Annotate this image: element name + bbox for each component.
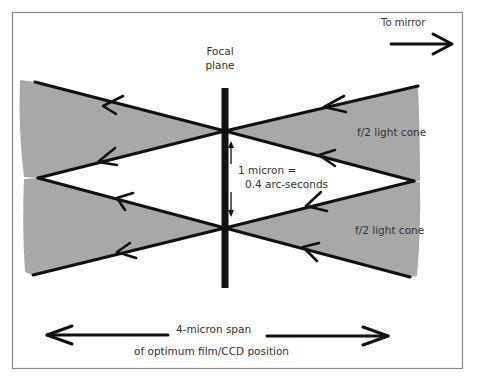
focal-plane-bar [222,88,229,288]
micron-label-line1: 1 micron = [238,163,296,177]
cone-lower-label: f/2 light cone [355,223,424,237]
focal-plane-label-line2: plane [195,58,245,72]
cone-upper-label: f/2 light cone [357,125,426,139]
micron-label-line2: 0.4 arc-seconds [245,177,328,191]
span-label-line2: of optimum film/CCD position [134,344,289,358]
to-mirror-label: To mirror [381,16,425,30]
focal-plane-label: Focal plane [195,44,245,72]
focal-plane-diagram: To mirror Focal plane f/2 light cone f/2… [0,0,477,382]
span-label-line1: 4-micron span [176,322,251,336]
focal-plane-label-line1: Focal [195,44,245,58]
